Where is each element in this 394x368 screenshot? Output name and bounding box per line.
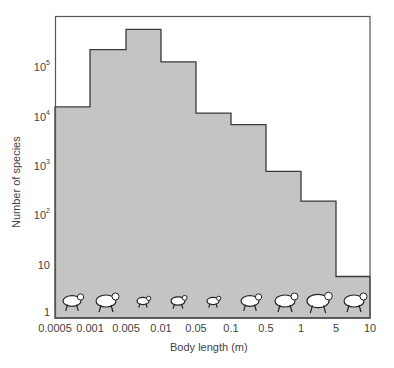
xtick: 0.5: [258, 322, 273, 334]
xtick: 10: [364, 322, 376, 334]
xtick: 0.001: [76, 322, 104, 334]
xtick: 0.0005: [38, 322, 72, 334]
ytick-1000: 103: [20, 159, 50, 172]
ytick-10: 10: [20, 259, 50, 271]
xtick: 5: [333, 322, 339, 334]
y-axis-label: Number of species: [10, 136, 22, 228]
xtick: 1: [298, 322, 304, 334]
xtick: 0.005: [112, 322, 140, 334]
xtick: 0.01: [150, 322, 171, 334]
xtick: 0.1: [223, 322, 238, 334]
xtick: 0.05: [185, 322, 206, 334]
ytick-10000: 104: [20, 110, 50, 123]
histogram-bars: [55, 29, 370, 318]
ytick-1: 1: [20, 306, 50, 318]
x-axis-label: Body length (m): [170, 341, 248, 353]
histogram-chart: [0, 0, 394, 368]
ytick-100000: 105: [20, 60, 50, 73]
ytick-100: 102: [20, 208, 50, 221]
